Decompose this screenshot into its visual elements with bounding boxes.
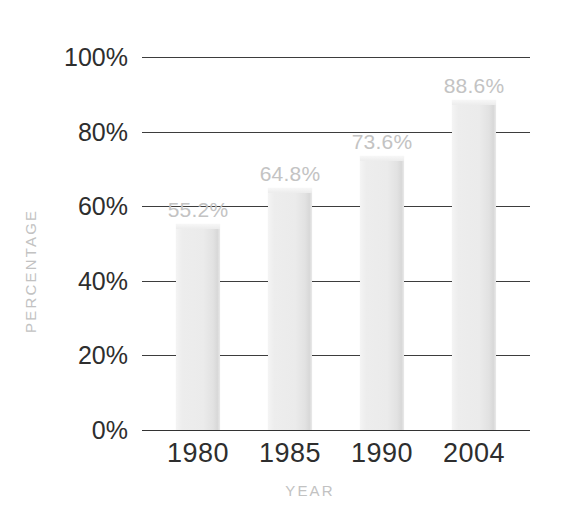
bar-value-label-1980: 55.2%	[168, 198, 229, 222]
x-tick-label-1990: 1990	[351, 438, 413, 469]
bar-value-label-1985: 64.8%	[260, 162, 321, 186]
x-tick-label-1980: 1980	[167, 438, 229, 469]
gridline-100	[142, 57, 530, 58]
y-tick-label-80: 80%	[0, 117, 128, 146]
gridline-baseline-0	[142, 430, 530, 431]
bar-2004[interactable]	[452, 100, 496, 431]
x-tick-label-1985: 1985	[259, 438, 321, 469]
y-tick-label-100: 100%	[0, 43, 128, 72]
bar-value-label-1990: 73.6%	[352, 130, 413, 154]
bar-chart: PERCENTAGE 100% 80% 60% 40% 20% 0% 55.2%…	[0, 0, 572, 529]
y-tick-label-40: 40%	[0, 266, 128, 295]
x-tick-label-2004: 2004	[443, 438, 505, 469]
plot-area: 55.2% 64.8% 73.6% 88.6%	[142, 57, 530, 430]
y-tick-label-20: 20%	[0, 341, 128, 370]
bar-1980[interactable]	[176, 224, 220, 430]
bar-1985[interactable]	[268, 188, 312, 430]
y-tick-label-0: 0%	[0, 416, 128, 445]
y-tick-label-60: 60%	[0, 192, 128, 221]
bar-value-label-2004: 88.6%	[444, 74, 505, 98]
bar-1990[interactable]	[360, 156, 404, 431]
x-axis-title: YEAR	[0, 482, 572, 499]
